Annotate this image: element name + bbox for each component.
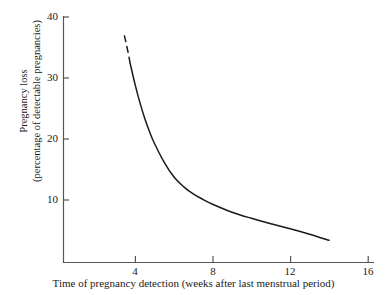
data-line-dashed (124, 35, 130, 63)
x-tick-label-16: 16 (348, 266, 387, 277)
y-axis-ticks (64, 17, 70, 200)
y-axis-label-line1: Pregnancy loss (17, 1, 30, 201)
x-tick-label-8: 8 (193, 266, 233, 277)
y-axis-label: Pregnancy loss (percentage of detectable… (17, 1, 43, 201)
data-line-solid (130, 63, 329, 240)
x-axis-label: Time of pregnancy detection (weeks after… (0, 277, 387, 290)
x-tick-label-12: 12 (270, 266, 310, 277)
chart-plot-area (0, 0, 387, 295)
y-axis-label-line2: (percentage of detectable pregnancies) (30, 1, 43, 201)
x-tick-label-4: 4 (115, 266, 155, 277)
x-axis-ticks (135, 256, 368, 263)
chart-figure: 40 30 20 10 4 8 12 16 Pregnancy loss (pe… (0, 0, 387, 295)
